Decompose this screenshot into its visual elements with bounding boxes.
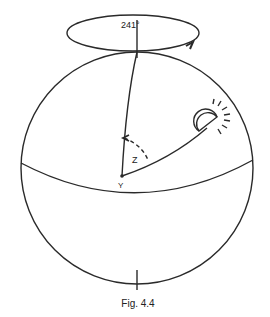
figure-caption: Fig. 4.4 <box>121 298 155 309</box>
angle-z-label: Z <box>132 155 138 165</box>
sphere-outline <box>21 52 253 284</box>
point-y-label: Y <box>118 181 124 190</box>
sun-icon <box>194 99 230 134</box>
point-y-dot <box>120 174 124 178</box>
azimuth-label: 241° <box>121 20 140 30</box>
celestial-sphere-diagram: 241° Z Y Fig. 4.4 <box>0 0 270 317</box>
sun-vertical-arc <box>122 128 207 176</box>
